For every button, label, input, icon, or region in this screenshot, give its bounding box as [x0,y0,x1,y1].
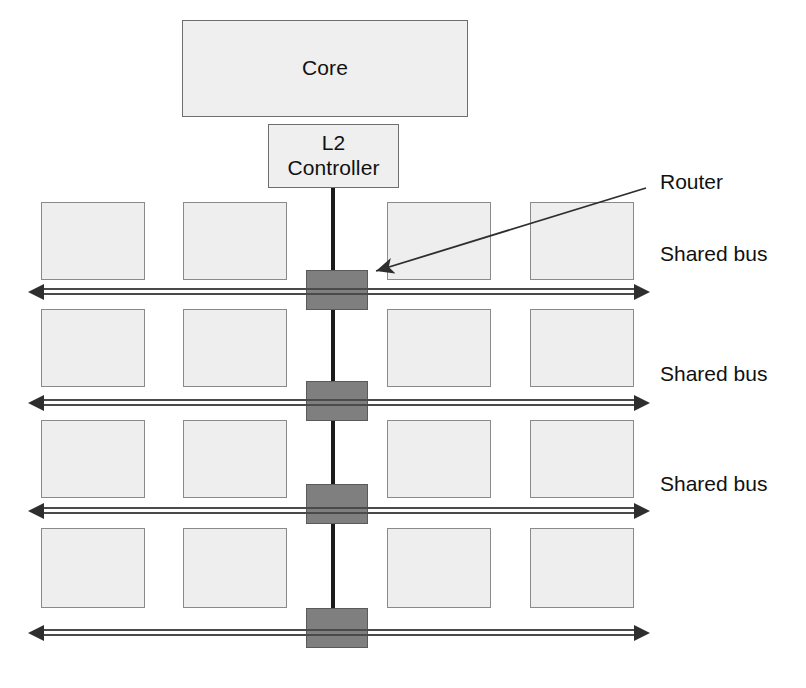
bus-arrowhead-left [28,625,44,641]
bus-rail-bottom [42,634,636,636]
tile-r4-c1 [41,528,145,608]
vertical-link-4 [331,524,335,608]
tile-r1-c3 [387,202,491,280]
tile-r1-c4 [530,202,634,280]
vertical-link-2 [331,310,335,381]
vertical-link-3 [331,421,335,484]
bus-arrowhead-right [634,625,650,641]
l2-controller-label: L2 Controller [287,131,379,181]
tile-r3-c4 [530,420,634,498]
core-block: Core [182,20,468,117]
bus-arrowhead-right [634,503,650,519]
vertical-link-1 [331,188,335,270]
shared-bus-2 [42,399,636,406]
router-3 [306,484,368,524]
shared-bus-label-1: Shared bus [660,242,767,266]
bus-arrowhead-left [28,395,44,411]
tile-r2-c2 [183,309,287,387]
tile-r1-c2 [183,202,287,280]
shared-bus-1 [42,288,636,295]
bus-rail-top [42,629,636,631]
tile-r4-c2 [183,528,287,608]
bus-arrowhead-right [634,395,650,411]
tile-r2-c1 [41,309,145,387]
bus-rail-bottom [42,512,636,514]
bus-arrowhead-right [634,284,650,300]
shared-bus-label-3: Shared bus [660,472,767,496]
bus-rail-bottom [42,404,636,406]
tile-r1-c1 [41,202,145,280]
router-4 [306,608,368,648]
shared-bus-3 [42,507,636,514]
tile-r4-c3 [387,528,491,608]
bus-rail-bottom [42,293,636,295]
bus-rail-top [42,399,636,401]
bus-rail-top [42,507,636,509]
router-callout-label: Router [660,170,723,194]
bus-arrowhead-left [28,284,44,300]
bus-arrowhead-left [28,503,44,519]
tile-r2-c4 [530,309,634,387]
tile-r4-c4 [530,528,634,608]
network-on-chip-diagram: Core L2 Controller RouterShared busShare… [0,0,806,688]
tile-r3-c2 [183,420,287,498]
shared-bus-4 [42,629,636,636]
core-label: Core [302,56,348,81]
bus-rail-top [42,288,636,290]
l2-controller-block: L2 Controller [268,124,399,188]
shared-bus-label-2: Shared bus [660,362,767,386]
tile-r3-c1 [41,420,145,498]
tile-r2-c3 [387,309,491,387]
tile-r3-c3 [387,420,491,498]
